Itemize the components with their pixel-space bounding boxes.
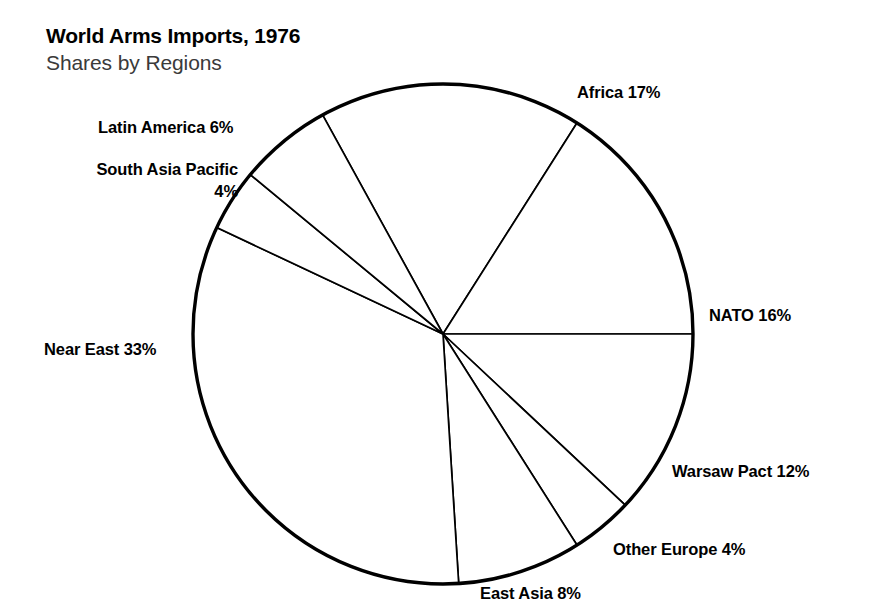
slice-label-south-asia-pacific-line1: South Asia Pacific [43,159,238,181]
page-title: World Arms Imports, 1976 [46,24,300,48]
pie-chart-figure: World Arms Imports, 1976 Shares by Regio… [0,0,892,609]
slice-label-nato: NATO 16% [709,305,791,327]
slice-label-south-asia-pacific: South Asia Pacific 4% [43,159,238,203]
pie-slice-group [193,84,693,584]
slice-label-warsaw-pact: Warsaw Pact 12% [672,461,809,483]
slice-label-latin-america: Latin America 6% [98,117,233,139]
slice-label-africa: Africa 17% [577,82,660,104]
slice-label-east-asia: East Asia 8% [480,583,581,605]
slice-label-other-europe: Other Europe 4% [613,539,745,561]
slice-label-south-asia-pacific-line2: 4% [43,181,238,203]
slice-label-near-east: Near East 33% [44,339,156,361]
page-subtitle: Shares by Regions [46,51,222,75]
